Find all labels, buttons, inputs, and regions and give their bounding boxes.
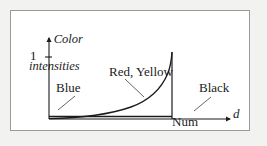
leader-line-red-yellow	[125, 79, 144, 97]
x-axis-title: d	[233, 107, 240, 121]
annotation-black: Black	[199, 81, 229, 95]
y-axis-title-line2: intensities	[29, 60, 83, 74]
figure-container: Color intensities 1 Blue Red, Yellow Bla…	[0, 0, 267, 146]
x-tick-label-num: Num	[172, 115, 198, 129]
annotation-blue: Blue	[56, 81, 81, 95]
y-axis-title-line1: Color	[54, 32, 83, 46]
figure-frame: Color intensities 1 Blue Red, Yellow Bla…	[10, 10, 250, 131]
leader-line-black	[194, 97, 211, 111]
annotation-red-yellow: Red, Yellow	[109, 65, 173, 79]
y-tick-label-one: 1	[30, 49, 37, 63]
